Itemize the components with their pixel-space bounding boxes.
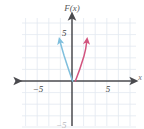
coordinate-plane-svg: F(x) 5 −5 5 x −5 — [0, 0, 144, 129]
figure-title: F(x) — [63, 3, 80, 13]
y-axis-tick-label-5: 5 — [62, 28, 67, 38]
x-axis-tick-label-5: 5 — [106, 84, 111, 94]
x-axis-variable-label: x — [137, 73, 142, 82]
graph-figure: F(x) 5 −5 5 x −5 — [0, 0, 144, 129]
x-axis-tick-label-neg5: −5 — [33, 84, 44, 94]
y-axis-tick-label-neg5: −5 — [56, 120, 67, 129]
